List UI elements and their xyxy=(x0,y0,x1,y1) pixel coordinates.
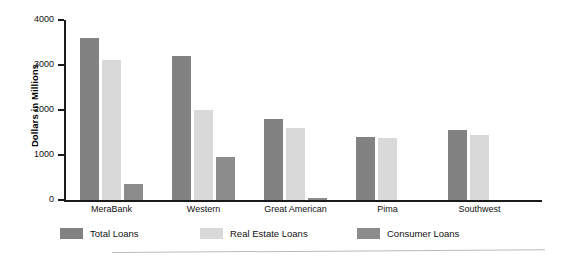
bar-group xyxy=(172,20,235,200)
bar xyxy=(264,119,283,200)
x-axis-category-label: Southwest xyxy=(418,204,541,214)
bar xyxy=(378,138,397,200)
plot-area: 0 1000 2000 3000 4000 MeraBankWesternGre… xyxy=(64,20,542,200)
y-axis-line xyxy=(64,20,66,201)
bar xyxy=(194,110,213,200)
legend-label: Total Loans xyxy=(90,228,139,239)
bar-group xyxy=(264,20,327,200)
bar-group xyxy=(80,20,143,200)
tick-mark xyxy=(58,19,64,20)
tick-mark xyxy=(58,64,64,65)
bar xyxy=(124,184,143,200)
legend-item-total-loans: Total Loans xyxy=(60,226,139,240)
tick-label: 2000 xyxy=(20,104,54,114)
bar-chart: Dollars in Millions 0 1000 2000 3000 xyxy=(0,0,567,260)
bar-group xyxy=(448,20,511,200)
tick-label: 1000 xyxy=(20,149,54,159)
tick-mark xyxy=(58,109,64,110)
tick-mark xyxy=(58,199,64,200)
bar xyxy=(356,137,375,200)
legend-swatch-icon xyxy=(60,228,83,239)
tick-label: 3000 xyxy=(20,59,54,69)
tick-label: 4000 xyxy=(20,14,54,24)
bar-group xyxy=(356,20,419,200)
tick-label: 0 xyxy=(20,194,54,204)
legend-label: Real Estate Loans xyxy=(230,228,308,239)
chart-legend: Total Loans Real Estate Loans Consumer L… xyxy=(60,226,560,242)
x-axis-line xyxy=(64,200,542,202)
legend-swatch-icon xyxy=(200,228,223,239)
bar xyxy=(216,157,235,200)
bar xyxy=(102,60,121,200)
legend-label: Consumer Loans xyxy=(387,228,459,239)
bar xyxy=(448,130,467,200)
legend-swatch-icon xyxy=(357,228,380,239)
bar xyxy=(80,38,99,200)
bar xyxy=(172,56,191,200)
legend-item-consumer-loans: Consumer Loans xyxy=(357,226,459,240)
bottom-divider xyxy=(112,249,545,253)
bar xyxy=(286,128,305,200)
bar xyxy=(470,135,489,200)
tick-mark xyxy=(58,154,64,155)
legend-item-real-estate-loans: Real Estate Loans xyxy=(200,226,308,240)
bar xyxy=(308,198,327,200)
